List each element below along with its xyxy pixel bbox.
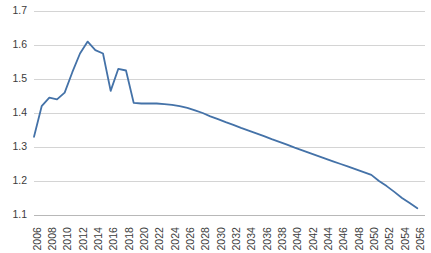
- x-tick-label: 2056: [414, 227, 426, 251]
- x-tick-label: 2030: [215, 227, 227, 251]
- x-tick-label: 2010: [61, 227, 73, 251]
- x-tick-label: 2016: [107, 227, 119, 251]
- y-tick-label: 1.1: [12, 208, 27, 220]
- x-tick-label: 2052: [383, 227, 395, 251]
- x-tick-label: 2042: [307, 227, 319, 251]
- x-tick-label: 2044: [322, 227, 334, 251]
- x-tick-label: 2022: [153, 227, 165, 251]
- y-tick-label: 1.6: [12, 38, 27, 50]
- x-tick-label: 2046: [337, 227, 349, 251]
- y-tick-label: 1.7: [12, 4, 27, 16]
- data-series: [34, 42, 417, 209]
- x-axis-tick-labels: 2006200820102012201420162018202020222024…: [31, 227, 426, 251]
- x-tick-label: 2034: [245, 227, 257, 251]
- x-tick-label: 2024: [169, 227, 181, 251]
- x-tick-label: 2028: [199, 227, 211, 251]
- y-tick-label: 1.3: [12, 140, 27, 152]
- x-tick-label: 2006: [31, 227, 43, 251]
- x-tick-label: 2032: [230, 227, 242, 251]
- x-tick-label: 2040: [291, 227, 303, 251]
- x-tick-label: 2048: [353, 227, 365, 251]
- x-tick-label: 2050: [368, 227, 380, 251]
- x-tick-label: 2008: [46, 227, 58, 251]
- gridlines: [34, 12, 425, 216]
- chart-canvas: 1.71.61.51.41.31.21.1 200620082010201220…: [0, 0, 431, 253]
- x-tick-label: 2012: [77, 227, 89, 251]
- y-tick-label: 1.4: [12, 106, 27, 118]
- x-tick-label: 2038: [276, 227, 288, 251]
- x-tick-label: 2026: [184, 227, 196, 251]
- y-tick-label: 1.2: [12, 174, 27, 186]
- x-tick-label: 2014: [92, 227, 104, 251]
- x-tick-label: 2020: [138, 227, 150, 251]
- series-line: [34, 42, 417, 209]
- x-tick-label: 2018: [123, 227, 135, 251]
- x-tick-label: 2036: [261, 227, 273, 251]
- y-axis-tick-labels: 1.71.61.51.41.31.21.1: [12, 4, 27, 220]
- line-chart: 1.71.61.51.41.31.21.1 200620082010201220…: [0, 0, 431, 253]
- x-tick-label: 2054: [399, 227, 411, 251]
- y-tick-label: 1.5: [12, 72, 27, 84]
